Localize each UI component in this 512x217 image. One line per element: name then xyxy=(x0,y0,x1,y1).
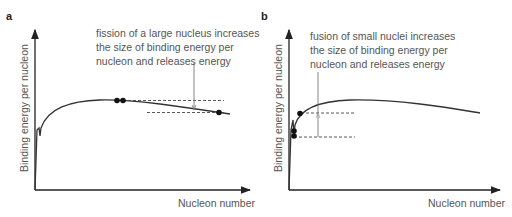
small-nucleus-point-1 xyxy=(291,128,297,134)
annotation-line: nucleon and releases energy xyxy=(96,54,259,68)
annotation-text-b: fusion of small nuclei increases the siz… xyxy=(310,29,455,71)
annotation-line: the size of binding energy per xyxy=(96,40,259,54)
annotation-line: nucleon and releases energy xyxy=(310,57,455,71)
annotation-text-a: fission of a large nucleus increases the… xyxy=(96,26,259,68)
annotation-line: fission of a large nucleus increases xyxy=(96,26,259,40)
x-axis-label-a: Nucleon number xyxy=(178,197,255,209)
fission-product-point-2 xyxy=(120,98,126,104)
panel-label-a: a xyxy=(6,10,12,22)
fission-product-point-1 xyxy=(114,98,120,104)
annotation-line: the size of binding energy per xyxy=(310,43,455,57)
small-nucleus-point-2 xyxy=(291,133,297,139)
annotation-line: fusion of small nuclei increases xyxy=(310,29,455,43)
binding-energy-curve-a xyxy=(35,100,230,190)
y-axis-label-a: Binding energy per nucleon xyxy=(18,44,30,172)
y-axis-label-b: Binding energy per nucleon xyxy=(272,44,284,172)
panel-label-b: b xyxy=(261,10,268,22)
fused-nucleus-point xyxy=(297,111,303,117)
large-nucleus-point xyxy=(216,110,222,116)
x-axis-label-b: Nucleon number xyxy=(428,197,505,209)
